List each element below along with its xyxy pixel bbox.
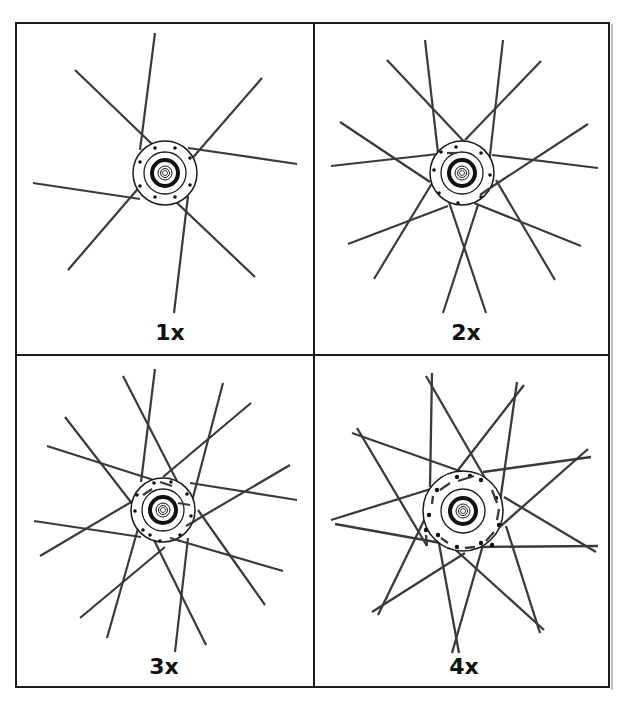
panel-label-4x: 4x <box>424 654 504 679</box>
panel-4x-wheel <box>315 356 611 688</box>
hub-3x <box>131 478 195 543</box>
panel-label-1x: 1x <box>130 320 210 345</box>
panel-label-3x: 3x <box>124 654 204 679</box>
panel-2x-wheel <box>315 24 611 354</box>
hub-1x <box>133 141 197 205</box>
frame-shadow <box>611 24 613 690</box>
hub-2x <box>430 141 494 205</box>
lacing-diagram: 1x <box>0 0 628 705</box>
panel-1x-wheel <box>17 24 313 354</box>
panel-label-2x: 2x <box>426 320 506 345</box>
hub-4x <box>423 471 503 551</box>
panel-3x-wheel <box>17 356 313 688</box>
